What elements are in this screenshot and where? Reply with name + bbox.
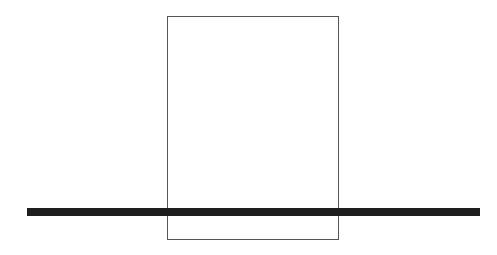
outlined-rectangle (167, 16, 339, 240)
horizontal-thick-line (27, 208, 480, 216)
